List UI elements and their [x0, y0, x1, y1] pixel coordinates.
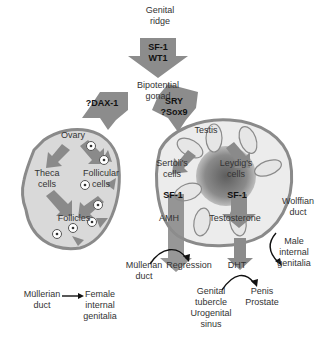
- follicles-label: Follicles: [54, 213, 94, 224]
- wolffian-duct-label: Wolffian duct: [276, 196, 320, 218]
- label-line: Wolffian: [276, 196, 320, 207]
- label-line: internal: [82, 300, 118, 311]
- sertoli-cells-label: Sertoli's cells: [152, 158, 192, 180]
- label-line: SF-1: [140, 42, 176, 53]
- leydig-cells-label: Leydig's cells: [216, 158, 256, 180]
- label-line: tubercle: [188, 297, 234, 308]
- label-line: cells: [216, 169, 256, 180]
- label-line: duct: [276, 207, 320, 218]
- label-line: Sertoli's: [152, 158, 192, 169]
- genital-tubercle-label: Genital tubercle Urogenital sinus: [188, 286, 234, 330]
- label-line: sinus: [188, 319, 234, 330]
- label-line: Bipotential: [130, 80, 186, 91]
- dht-label: DHT: [224, 260, 250, 271]
- label-line: Müllerian: [124, 260, 164, 271]
- mullerian-duct-male-label: Müllerian duct: [124, 260, 164, 282]
- label-line: Leydig's: [216, 158, 256, 169]
- label-line: Genital: [140, 5, 180, 16]
- label-line: cells: [32, 179, 62, 190]
- theca-cells-label: Theca cells: [32, 168, 62, 190]
- penis-prostate-label: Penis Prostate: [242, 286, 282, 308]
- label-line: duct: [20, 300, 64, 311]
- label-line: Male: [274, 236, 314, 247]
- mullerian-duct-female-label: Müllerian duct: [20, 289, 64, 311]
- male-internal-genitalia-label: Male internal genitalia: [274, 236, 314, 269]
- testis-label: Testis: [190, 125, 222, 136]
- label-line: Urogenital: [188, 308, 234, 319]
- label-line: WT1: [140, 53, 176, 64]
- label-line: Penis: [242, 286, 282, 297]
- label-line: cells: [80, 179, 122, 190]
- ovary-label: Ovary: [58, 130, 88, 141]
- follicular-cells-label: Follicular cells: [80, 168, 122, 190]
- sry-sox9-label: SRY ?Sox9: [154, 96, 194, 118]
- amh-label: AMH: [154, 213, 184, 224]
- gonadal-differentiation-diagram: Genital ridge SF-1 WT1 Bipotential gonad…: [0, 0, 329, 350]
- label-line: genitalia: [82, 311, 118, 322]
- label-line: duct: [124, 271, 164, 282]
- label-line: Genital: [188, 286, 234, 297]
- sf1-leydig-label: SF-1: [222, 190, 252, 201]
- testosterone-label: Testosterone: [208, 213, 262, 224]
- dax1-label: ?DAX-1: [82, 98, 122, 109]
- sf1-wt1-label: SF-1 WT1: [140, 42, 176, 64]
- label-line: Female: [82, 289, 118, 300]
- label-line: genitalia: [274, 258, 314, 269]
- label-line: Prostate: [242, 297, 282, 308]
- label-line: ridge: [140, 16, 180, 27]
- female-internal-genitalia-label: Female internal genitalia: [82, 289, 118, 322]
- label-line: ?Sox9: [154, 107, 194, 118]
- label-line: SRY: [154, 96, 194, 107]
- label-line: Theca: [32, 168, 62, 179]
- label-line: cells: [152, 169, 192, 180]
- label-line: Müllerian: [20, 289, 64, 300]
- genital-ridge-label: Genital ridge: [140, 5, 180, 27]
- label-line: Follicular: [80, 168, 122, 179]
- sf1-sertoli-label: SF-1: [158, 190, 188, 201]
- label-line: internal: [274, 247, 314, 258]
- regression-label: Regression: [164, 260, 214, 271]
